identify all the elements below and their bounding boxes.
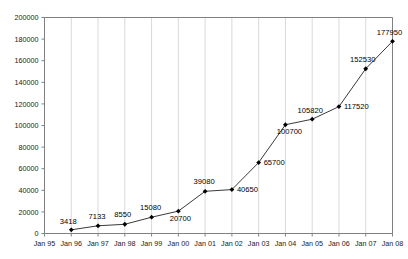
x-axis-tick-label: Jan 07	[355, 239, 377, 248]
x-axis-tick-label: Jan 06	[328, 239, 350, 248]
data-point-label: 39080	[194, 177, 215, 186]
y-axis-tick-label: 80000	[19, 143, 39, 152]
data-point-marker	[96, 223, 101, 228]
y-axis-tick-label: 100000	[15, 121, 39, 130]
x-axis-tick-label: Jan 99	[141, 239, 163, 248]
y-axis-tick-label: 200000	[15, 13, 39, 22]
y-axis-tick-label: 120000	[15, 100, 39, 109]
data-series: 3418713385501508020700390804065065700100…	[60, 28, 402, 232]
data-point-label: 117520	[344, 102, 369, 111]
data-point-marker	[69, 227, 74, 232]
data-point-label: 65700	[264, 158, 285, 167]
x-axis-tick-label: Jan 05	[301, 239, 323, 248]
data-point-label: 7133	[89, 212, 106, 221]
chart-canvas: 0200004000060000800001000001200001400001…	[0, 0, 408, 259]
x-axis: Jan 95Jan 96Jan 97Jan 98Jan 99Jan 00Jan …	[34, 234, 404, 249]
data-point-label: 177950	[377, 28, 402, 37]
y-axis-tick-label: 180000	[15, 35, 39, 44]
data-point-label: 40650	[237, 185, 258, 194]
x-axis-tick-label: Jan 01	[194, 239, 216, 248]
data-point-label: 8550	[114, 210, 131, 219]
y-axis-tick-label: 40000	[19, 186, 39, 195]
x-axis-tick-label: Jan 96	[60, 239, 82, 248]
plot-frame	[45, 18, 393, 234]
data-point-label: 152530	[350, 55, 375, 64]
y-axis-tick-label: 20000	[19, 208, 39, 217]
x-axis-tick-label: Jan 02	[221, 239, 243, 248]
x-axis-tick-label: Jan 00	[168, 239, 190, 248]
data-point-label: 15080	[140, 203, 161, 212]
data-point-label: 3418	[60, 217, 77, 226]
x-axis-tick-label: Jan 08	[382, 239, 404, 248]
data-point-label: 20700	[170, 214, 191, 223]
x-axis-tick-label: Jan 95	[34, 239, 56, 248]
data-point-marker	[122, 222, 127, 227]
y-axis-tick-label: 160000	[15, 56, 39, 65]
y-axis-tick-label: 60000	[19, 164, 39, 173]
y-axis-tick-label: 140000	[15, 78, 39, 87]
y-axis: 0200004000060000800001000001200001400001…	[15, 13, 45, 238]
x-axis-tick-label: Jan 98	[114, 239, 136, 248]
data-point-marker	[310, 117, 315, 122]
data-point-marker	[149, 215, 154, 220]
y-axis-tick-label: 0	[35, 229, 39, 238]
data-point-label: 105820	[298, 106, 323, 115]
x-axis-tick-label: Jan 03	[248, 239, 270, 248]
x-axis-tick-label: Jan 97	[87, 239, 109, 248]
data-point-label: 100700	[277, 127, 302, 136]
gridlines	[71, 18, 392, 234]
line-chart: 0200004000060000800001000001200001400001…	[0, 0, 408, 259]
x-axis-tick-label: Jan 04	[275, 239, 297, 248]
